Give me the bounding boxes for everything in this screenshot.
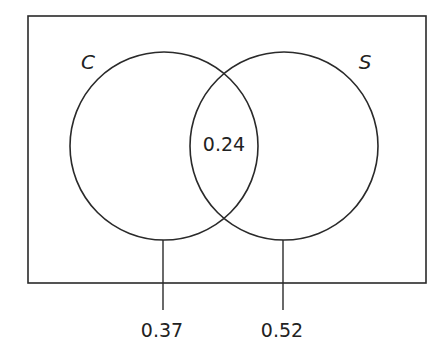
venn-diagram: C S 0.24 0.37 0.52 <box>0 0 448 361</box>
set-label-s: S <box>359 50 372 74</box>
set-label-c: C <box>81 50 95 74</box>
intersection-value: 0.24 <box>203 133 245 155</box>
callout-value-c: 0.37 <box>141 319 183 341</box>
callout-value-s: 0.52 <box>261 319 303 341</box>
